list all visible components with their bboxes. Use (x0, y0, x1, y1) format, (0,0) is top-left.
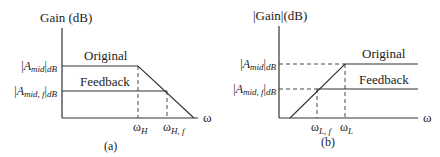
xtick-omega-h: ωH (133, 120, 148, 136)
x-axis-label: ω (423, 110, 432, 125)
caption-a: (a) (104, 139, 117, 153)
x-axis-label: ω (203, 110, 212, 125)
ytick-amidf: |Amid, f|dB (14, 84, 57, 99)
label-feedback: Feedback (80, 74, 130, 89)
xtick-omega-hf: ωH, f (163, 120, 186, 136)
label-feedback: Feedback (359, 72, 409, 87)
label-original: Original (84, 48, 128, 63)
label-original: Original (362, 46, 406, 61)
caption-b: (b) (321, 135, 335, 149)
xtick-omega-l: ωL (340, 120, 353, 136)
y-axis-label: |Gain|(dB) (253, 8, 307, 23)
xtick-omega-lf: ωL, f (311, 120, 332, 136)
ytick-amid: |Amid|dB (21, 59, 57, 74)
bode-diagram: Gain (dB) ω Original Feedback |Amid|dB |… (0, 0, 440, 157)
panel-b: |Gain|(dB) ω Original Feedback |Amid|dB … (233, 8, 432, 149)
ytick-amid: |Amid|dB (240, 57, 276, 72)
ytick-amidf: |Amid, f|dB (233, 82, 276, 97)
y-axis-label: Gain (dB) (40, 10, 92, 25)
panel-a: Gain (dB) ω Original Feedback |Amid|dB |… (14, 10, 212, 153)
